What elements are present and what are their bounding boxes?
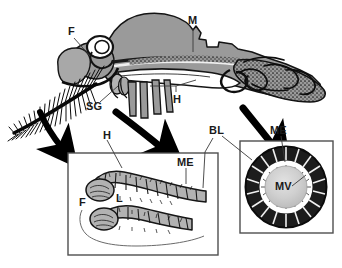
label-F-main: F xyxy=(68,26,75,37)
anatomy-figure: F M SG H H ME F L BL ME MV xyxy=(0,0,342,268)
left-inset-box xyxy=(68,153,218,255)
label-ME-inset-left: ME xyxy=(177,157,194,168)
label-ME-inset-right: ME xyxy=(270,125,287,136)
tubule-upper-coil xyxy=(86,179,114,201)
tubule-lower-coil xyxy=(90,208,118,230)
label-H-inset: H xyxy=(103,130,111,141)
anatomy-svg xyxy=(0,0,342,268)
label-H-main: H xyxy=(173,94,181,105)
label-F-inset: F xyxy=(79,197,86,208)
label-BL: BL xyxy=(209,125,224,136)
pharynx-inner xyxy=(95,41,109,54)
label-L-inset: L xyxy=(116,193,123,204)
label-SG-main: SG xyxy=(86,101,102,112)
left-inset-group xyxy=(68,153,218,255)
label-MV: MV xyxy=(275,181,292,192)
label-M-main: M xyxy=(188,15,197,26)
